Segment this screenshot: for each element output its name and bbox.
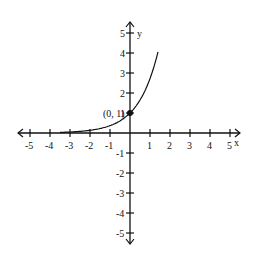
y-tick-label: -2 <box>116 168 124 179</box>
y-tick-label: -3 <box>116 188 124 199</box>
x-tick-label: 5 <box>227 140 232 151</box>
x-axis-label: x <box>234 137 239 148</box>
x-tick-label: 4 <box>207 140 212 151</box>
x-tick-label: -3 <box>65 140 73 151</box>
point-marker <box>127 110 133 116</box>
y-tick-label: -4 <box>116 208 124 219</box>
y-tick-label: 5 <box>120 28 125 39</box>
y-axis-label: y <box>137 28 142 39</box>
point-label: (0, 1) <box>103 108 125 120</box>
exponential-curve <box>60 52 158 132</box>
x-tick-label: -2 <box>85 140 93 151</box>
coordinate-plane: -5-4-3-2-11234554321-1-2-3-4-5 x y (0, 1… <box>0 0 258 261</box>
x-tick-label: 3 <box>187 140 192 151</box>
y-tick-label: -5 <box>116 228 124 239</box>
x-tick-label: -5 <box>25 140 33 151</box>
y-tick-label: 3 <box>120 68 125 79</box>
x-tick-label: 1 <box>147 140 152 151</box>
y-tick-label: 4 <box>120 48 125 59</box>
x-tick-label: -1 <box>105 140 113 151</box>
y-tick-label: -1 <box>116 148 124 159</box>
y-tick-label: 2 <box>120 88 125 99</box>
x-tick-label: 2 <box>167 140 172 151</box>
x-tick-label: -4 <box>45 140 53 151</box>
